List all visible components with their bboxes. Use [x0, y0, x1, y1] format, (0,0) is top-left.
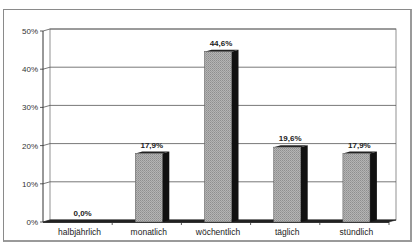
category-label: halbjährlich [58, 227, 101, 237]
bar [343, 152, 377, 222]
y-tick-label: 40% [22, 65, 38, 74]
bar [205, 50, 239, 222]
value-label: 17,9% [140, 141, 163, 150]
bar [135, 152, 169, 222]
category-label: stündlich [340, 227, 374, 237]
y-tick-label: 10% [22, 180, 38, 189]
category-label: täglich [275, 227, 300, 237]
bar [274, 145, 308, 222]
category-label: monatlich [131, 227, 168, 237]
value-label: 17,9% [348, 141, 371, 150]
y-tick-label: 30% [22, 103, 38, 112]
category-label: wöchentlich [195, 227, 241, 237]
value-label: 44,6% [210, 39, 233, 48]
y-tick-label: 50% [22, 27, 38, 36]
value-label: 0,0% [73, 209, 91, 218]
value-label: 19,6% [279, 134, 302, 143]
y-tick-label: 20% [22, 142, 38, 151]
y-tick-label: 0% [26, 218, 38, 227]
bar-chart: 0%10%20%30%40%50%0,0%halbjährlich17,9%mo… [0, 0, 419, 245]
